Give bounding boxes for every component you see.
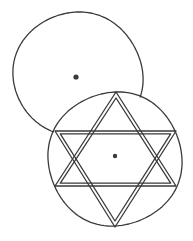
star-up-triangle-inner: [60, 98, 170, 183]
ink-strokes: [13, 12, 182, 227]
lower-circle-outline: [48, 92, 182, 226]
sketch-drawing: [0, 0, 193, 241]
upper-circle-dot: [73, 74, 78, 79]
lower-circle-dot: [113, 154, 117, 158]
upper-circle-outline: [13, 12, 143, 132]
star-down-triangle-inner: [60, 134, 170, 221]
sketch-canvas: [0, 0, 193, 241]
star-up-triangle-outer: [55, 92, 176, 186]
